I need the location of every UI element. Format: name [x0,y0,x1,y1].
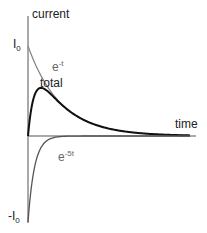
e-5t-label: e-5t [58,150,74,163]
e-5t-curve [28,136,190,222]
i0-tick-label: I0 [13,38,21,53]
total-label: total [40,77,63,89]
y-axis-label: current [32,8,69,20]
e-t-label: e-t [52,60,64,73]
total-curve [28,88,190,136]
neg-i0-tick-label: -I0 [8,210,20,225]
x-axis-label: time [175,118,198,130]
